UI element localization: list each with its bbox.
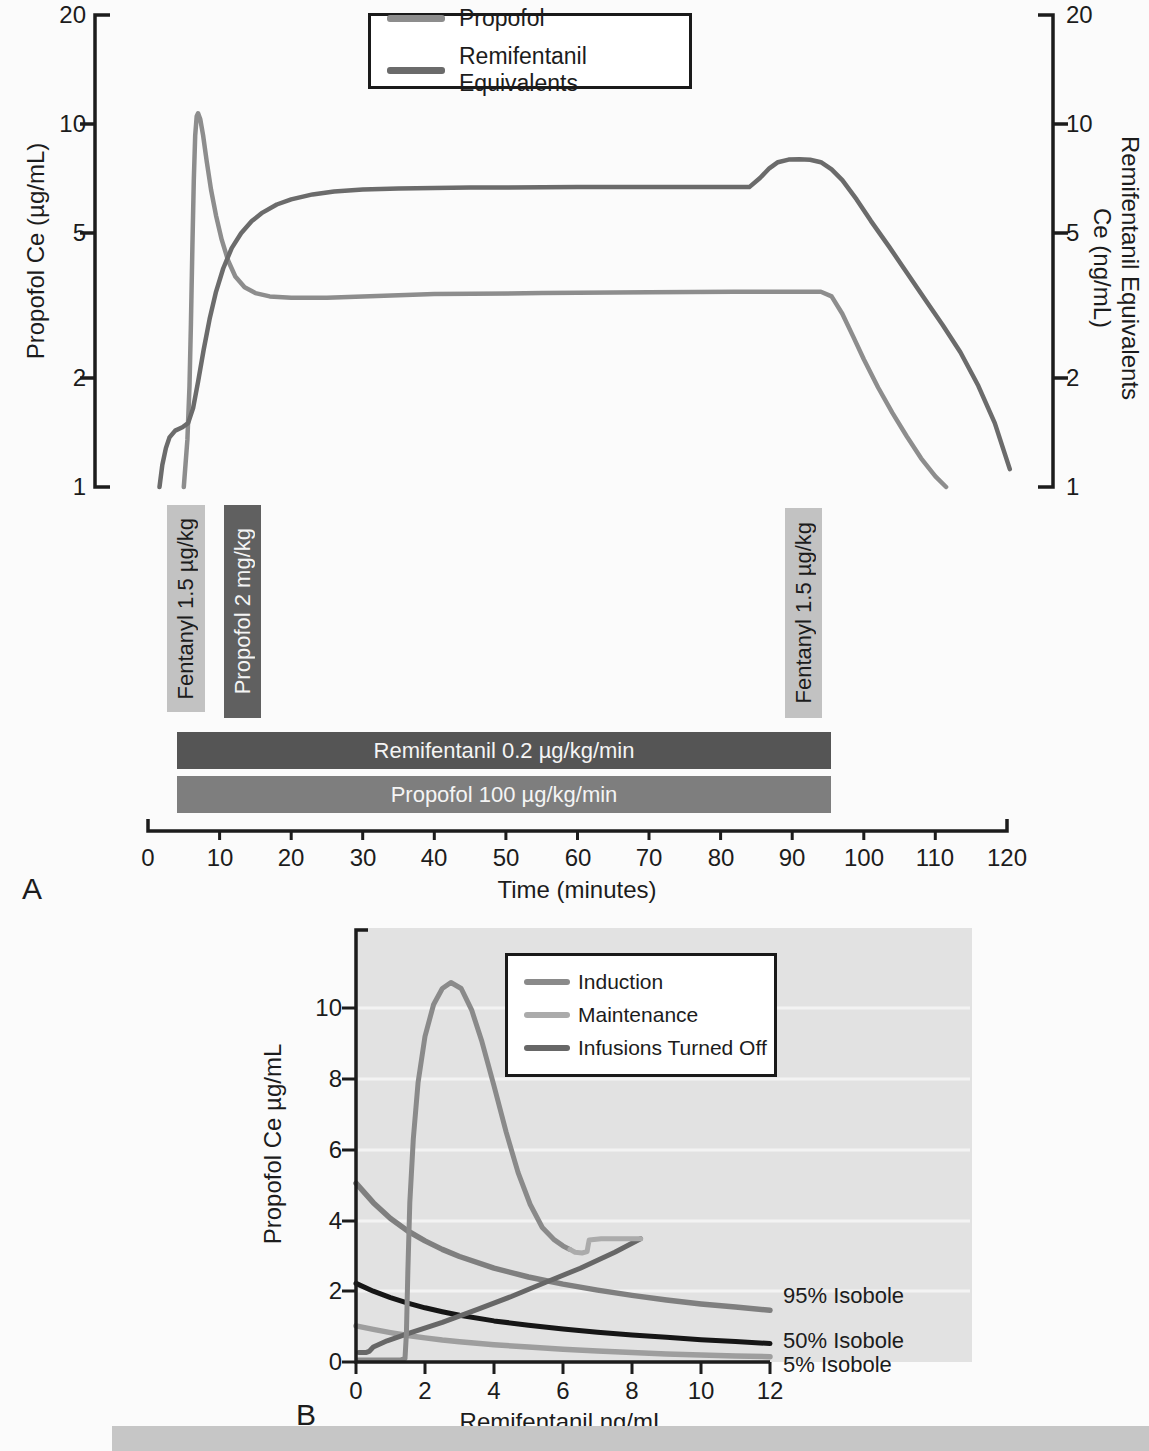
panel-b-y-axis-title: Propofol Ce µg/mL — [259, 1019, 287, 1269]
b-x-tick-0: 0 — [326, 1378, 386, 1404]
a-yl-tick-2: 2 — [42, 365, 86, 391]
panel-a-left-axis-title: Propofol Ce (µg/mL) — [22, 101, 50, 401]
legend-item-maintenance: Maintenance — [524, 1003, 774, 1027]
fentanyl-bolus-label: Fentanyl 1.5 µg/kg — [173, 518, 199, 699]
panel-a-legend: Propofol Remifentanil Equivalents — [368, 13, 692, 89]
legend-label: Infusions Turned Off — [578, 1036, 767, 1060]
a-x-tick-10: 10 — [190, 845, 250, 871]
figure-drawing-layer — [0, 0, 1149, 1451]
fentanyl-bolus-label: Fentanyl 1.5 µg/kg — [791, 522, 817, 703]
right-axis-title-line1: Remifentanil Equivalents — [1116, 108, 1144, 428]
b-y-tick-2: 2 — [298, 1278, 342, 1304]
a-x-tick-50: 50 — [476, 845, 536, 871]
panel-b-legend: Induction Maintenance Infusions Turned O… — [505, 953, 777, 1077]
remifentanil-equivalents-curve — [160, 159, 1010, 487]
legend-label: Remifentanil Equivalents — [459, 43, 689, 97]
isobole-5-label: 5% Isobole — [783, 1352, 892, 1378]
right-axis-title-line2: Ce (ng/mL) — [1088, 108, 1116, 428]
a-x-tick-90: 90 — [762, 845, 822, 871]
b-x-tick-2: 2 — [395, 1378, 455, 1404]
propofol-infusion-bar: Propofol 100 µg/kg/min — [177, 776, 831, 813]
b-y-tick-8: 8 — [298, 1066, 342, 1092]
a-x-tick-30: 30 — [333, 845, 393, 871]
panel-a-left-axis-ticks — [80, 124, 95, 378]
figure-canvas: Propofol Remifentanil Equivalents Propof… — [0, 0, 1149, 1451]
propofol-bolus-bar: Propofol 2 mg/kg — [224, 505, 261, 718]
panel-a-left-axis — [95, 15, 110, 487]
a-yl-tick-20: 20 — [42, 2, 86, 28]
remifentanil-line-swatch — [387, 67, 445, 74]
page-bottom-strip — [112, 1426, 1149, 1451]
b-y-tick-6: 6 — [298, 1137, 342, 1163]
b-y-tick-4: 4 — [298, 1208, 342, 1234]
a-yr-tick-2: 2 — [1066, 365, 1079, 391]
a-yl-tick-5: 5 — [42, 220, 86, 246]
a-x-tick-70: 70 — [619, 845, 679, 871]
a-x-tick-80: 80 — [691, 845, 751, 871]
a-yl-tick-1: 1 — [42, 474, 86, 500]
b-y-tick-0: 0 — [298, 1349, 342, 1375]
isobole-50-label: 50% Isobole — [783, 1328, 904, 1354]
panel-a-right-axis-title: Remifentanil Equivalents Ce (ng/mL) — [1088, 108, 1144, 428]
fentanyl-bolus-bar-1: Fentanyl 1.5 µg/kg — [167, 505, 205, 712]
b-x-tick-6: 6 — [533, 1378, 593, 1404]
b-x-tick-8: 8 — [602, 1378, 662, 1404]
legend-label: Induction — [578, 970, 663, 994]
legend-item-induction: Induction — [524, 970, 774, 994]
a-x-tick-110: 110 — [905, 845, 965, 871]
a-yr-tick-1: 1 — [1066, 474, 1079, 500]
a-x-tick-20: 20 — [261, 845, 321, 871]
propofol-infusion-label: Propofol 100 µg/kg/min — [391, 782, 618, 808]
panel-a-letter: A — [22, 872, 42, 906]
legend-item-propofol: Propofol — [387, 5, 689, 32]
a-x-tick-0: 0 — [118, 845, 178, 871]
a-yr-tick-5: 5 — [1066, 220, 1079, 246]
legend-item-remifentanil: Remifentanil Equivalents — [387, 43, 689, 97]
induction-line-swatch — [524, 979, 570, 985]
a-x-tick-60: 60 — [548, 845, 608, 871]
b-y-tick-10: 10 — [298, 995, 342, 1021]
legend-label: Maintenance — [578, 1003, 698, 1027]
remifentanil-infusion-bar: Remifentanil 0.2 µg/kg/min — [177, 732, 831, 769]
panel-b-x-axis-ticks — [356, 1362, 770, 1374]
legend-item-infusions-off: Infusions Turned Off — [524, 1036, 774, 1060]
fentanyl-bolus-bar-2: Fentanyl 1.5 µg/kg — [785, 508, 822, 718]
panel-a-x-axis — [148, 819, 1007, 831]
infusions-off-line-swatch — [524, 1045, 570, 1051]
b-x-tick-10: 10 — [671, 1378, 731, 1404]
panel-a-right-axis-ticks — [1053, 124, 1068, 378]
isobole-95-label: 95% Isobole — [783, 1283, 904, 1309]
maintenance-line-swatch — [524, 1012, 570, 1018]
a-x-tick-120: 120 — [977, 845, 1037, 871]
propofol-bolus-label: Propofol 2 mg/kg — [230, 528, 256, 694]
remifentanil-infusion-label: Remifentanil 0.2 µg/kg/min — [374, 738, 635, 764]
legend-label: Propofol — [459, 5, 545, 32]
a-yr-tick-10: 10 — [1066, 111, 1093, 137]
panel-a-x-axis-title: Time (minutes) — [477, 876, 677, 904]
a-x-tick-100: 100 — [834, 845, 894, 871]
panel-b-y-axis-ticks — [342, 1008, 356, 1362]
propofol-line-swatch — [387, 15, 445, 22]
a-yr-tick-20: 20 — [1066, 2, 1093, 28]
b-x-tick-12: 12 — [740, 1378, 800, 1404]
a-yl-tick-10: 10 — [42, 111, 86, 137]
b-x-tick-4: 4 — [464, 1378, 524, 1404]
panel-a-right-axis — [1038, 15, 1053, 487]
a-x-tick-40: 40 — [404, 845, 464, 871]
